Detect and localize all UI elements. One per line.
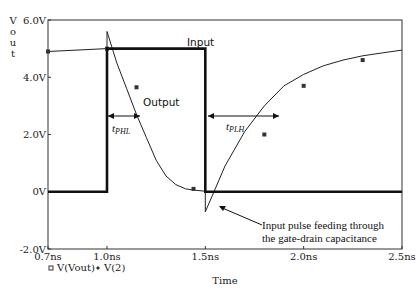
x-tick-label: 0.7ns bbox=[34, 251, 61, 262]
legend: V(Vout) V(2) bbox=[49, 262, 125, 273]
transient-plot: Vout 6.0V4.0V2.0V0V-2.0V 0.7ns1.0ns1.5ns… bbox=[0, 0, 416, 295]
x-tick-label: 2.5ns bbox=[388, 251, 415, 262]
input-v2-line bbox=[48, 49, 402, 192]
legend-square-marker bbox=[49, 266, 53, 270]
vout-marker bbox=[361, 58, 365, 62]
y-tick-label: 4.0V bbox=[23, 72, 47, 83]
legend-vout: V(Vout) bbox=[56, 262, 95, 273]
output-vout-line bbox=[48, 32, 402, 212]
x-tick-label: 1.5ns bbox=[192, 251, 219, 262]
y-tick-label: 6.0V bbox=[23, 15, 47, 26]
input-label: Input bbox=[187, 36, 214, 48]
feedthrough-annotation-line2: the gate-drain capacitance bbox=[262, 232, 377, 244]
x-tick-label: 1.0ns bbox=[93, 251, 120, 262]
y-axis-title: Vout bbox=[8, 15, 17, 59]
x-axis-ticks: 0.7ns1.0ns1.5ns2.0ns2.5ns bbox=[34, 246, 415, 262]
series-group bbox=[46, 32, 402, 212]
feedthrough-annotation-line1: Input pulse feeding through bbox=[262, 219, 384, 231]
tplh-label: tPLH bbox=[226, 120, 245, 134]
vout-marker bbox=[192, 187, 196, 191]
vout-marker bbox=[46, 49, 50, 53]
y-tick-label: 2.0V bbox=[23, 129, 47, 140]
vout-marker bbox=[135, 85, 139, 89]
svg-text:Vout: Vout bbox=[8, 15, 17, 59]
legend-diamond-marker bbox=[96, 266, 100, 270]
annotations: Input Output tPHL tPLH Input pulse feedi… bbox=[108, 36, 384, 244]
output-label: Output bbox=[143, 96, 179, 108]
x-tick-label: 2.0ns bbox=[290, 251, 317, 262]
feedthrough-arrow bbox=[219, 206, 262, 225]
plot-frame bbox=[48, 20, 402, 249]
vout-marker bbox=[302, 84, 306, 88]
legend-v2: V(2) bbox=[103, 262, 125, 273]
x-axis-title: Time bbox=[212, 275, 237, 286]
vout-marker bbox=[262, 133, 266, 137]
tphl-interval-arrow bbox=[108, 113, 140, 119]
tphl-label: tPHL bbox=[112, 122, 131, 136]
tplh-interval-arrow bbox=[208, 113, 279, 119]
y-tick-label: 0V bbox=[32, 186, 46, 197]
